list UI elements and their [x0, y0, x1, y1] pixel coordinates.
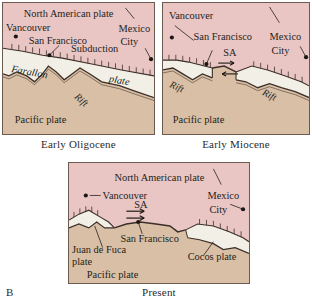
caption-early-miocene: Early Miocene: [162, 138, 310, 150]
label-pacific-plate: Pacific plate: [173, 114, 225, 125]
caption-present: Present: [68, 286, 250, 298]
label-san-andreas: SA: [223, 47, 237, 58]
label-pacific-plate: Pacific plate: [15, 114, 67, 125]
label-san-francisco: San Francisco: [120, 233, 178, 244]
label-mexico-city-line2: City: [120, 36, 139, 47]
label-north-american-plate: North American plate: [114, 172, 204, 183]
label-mexico-city-line1: Mexico: [207, 190, 239, 201]
city-dot-vancouver: [170, 35, 174, 39]
caption-early-oligocene: Early Oligocene: [2, 138, 155, 150]
label-san-francisco: San Francisco: [194, 31, 252, 42]
label-north-american-plate: North American plate: [24, 8, 114, 19]
figure-letter: B: [6, 286, 13, 298]
label-juan-de-fuca-line1: Juan de Fuca: [72, 245, 127, 256]
city-dot-san-francisco: [136, 220, 140, 224]
label-pacific-plate: Pacific plate: [87, 269, 139, 280]
city-dot-vancouver: [84, 193, 88, 197]
city-dot-vancouver: [14, 34, 18, 38]
label-juan-de-fuca-line2: plate: [72, 256, 93, 267]
label-subduction: Subduction: [71, 43, 119, 54]
panel-present: North American plate Vancouver SA Mexico…: [68, 162, 250, 284]
label-vancouver: Vancouver: [169, 10, 214, 21]
label-mexico-city-line1: Mexico: [270, 31, 302, 42]
map-present: North American plate Vancouver SA Mexico…: [69, 163, 249, 283]
city-dot-san-francisco: [204, 62, 208, 66]
label-mexico-city-line2: City: [209, 204, 228, 215]
map-early-oligocene: North American plate Vancouver San Franc…: [3, 3, 154, 134]
panel-early-miocene: Vancouver San Francisco Mexico City SA R…: [162, 2, 310, 135]
tectonic-evolution-figure: North American plate Vancouver San Franc…: [0, 0, 312, 303]
map-early-miocene: Vancouver San Francisco Mexico City SA R…: [163, 3, 309, 134]
label-mexico-city-line2: City: [272, 45, 291, 56]
label-cocos-plate: Cocos plate: [188, 251, 237, 262]
label-vancouver: Vancouver: [6, 22, 51, 33]
label-mexico-city-line1: Mexico: [118, 23, 150, 34]
panel-early-oligocene: North American plate Vancouver San Franc…: [2, 2, 155, 135]
city-dot-mexico-city: [149, 57, 153, 61]
label-san-andreas: SA: [134, 199, 148, 210]
